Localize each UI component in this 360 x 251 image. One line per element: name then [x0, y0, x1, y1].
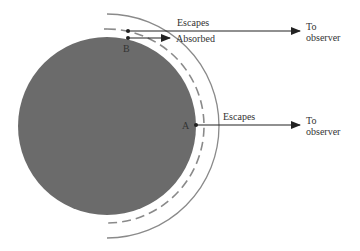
label-bottom-to: To	[306, 115, 316, 126]
point-b-outer-dot	[126, 29, 130, 33]
label-point-a: A	[182, 120, 190, 131]
label-b-escapes: Escapes	[177, 17, 209, 28]
point-b-inner-dot	[126, 36, 130, 40]
point-a-dot	[194, 123, 198, 127]
label-point-b: B	[123, 43, 130, 54]
label-absorbed: Absorbed	[176, 33, 215, 44]
diagram-canvas: Escapes Absorbed B A Escapes To observer…	[0, 0, 360, 251]
label-top-observer: observer	[306, 32, 341, 43]
label-top-to: To	[306, 21, 316, 32]
sphere	[18, 37, 196, 215]
label-bottom-observer: observer	[306, 126, 341, 137]
label-a-escapes: Escapes	[223, 111, 255, 122]
